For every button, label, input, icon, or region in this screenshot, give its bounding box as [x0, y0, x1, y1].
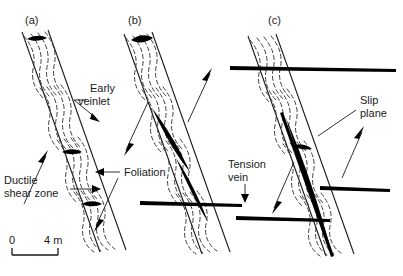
early-veinlet-b-top [131, 35, 153, 42]
tension-vein-c-left [236, 216, 330, 222]
shear-sense-arrows-c [272, 126, 364, 214]
geology-figure: (a) (b) (c) Early veinlet Ductile shear … [0, 0, 403, 276]
panel-a [22, 30, 126, 252]
label-early-veinlet-line2: veinlet [78, 95, 110, 107]
label-tension-vein-line2: vein [228, 171, 248, 183]
shear-zone-boundary-right-b [152, 32, 230, 252]
foliation-traces-a [24, 32, 115, 252]
label-tension-vein-line1: Tension [228, 158, 266, 170]
label-slip-plane-line2: plane [360, 107, 387, 119]
label-ductile-shear-zone-line1: Ductile [4, 174, 38, 186]
figure-canvas: (a) (b) (c) Early veinlet Ductile shear … [0, 0, 403, 276]
panel-label-c: (c) [268, 14, 281, 26]
panel-b [124, 32, 242, 254]
sheared-vein-b-lower [176, 158, 208, 222]
tension-vein-c-right [320, 186, 390, 192]
scale-bar-zero-label: 0 [9, 234, 15, 246]
label-slip-plane-line1: Slip [360, 94, 378, 106]
early-veinlet-a-lower [82, 201, 102, 206]
scale-bar: 0 4 m [9, 234, 62, 255]
scale-bar-max-label: 4 m [44, 234, 62, 246]
scale-bar-line [12, 248, 58, 255]
early-veinlet-a-top [27, 36, 47, 41]
label-ductile-shear-zone-line2: shear zone [4, 187, 58, 199]
panel-label-b: (b) [128, 14, 141, 26]
tension-vein-c-upper [230, 66, 396, 72]
annotation-leaders [70, 100, 356, 203]
label-foliation: Foliation [124, 166, 166, 178]
panel-c [230, 34, 396, 257]
label-early-veinlet-line1: Early [90, 82, 116, 94]
slip-plane-c-trace [280, 112, 334, 257]
sheared-vein-b [152, 108, 190, 172]
panel-label-a: (a) [25, 14, 38, 26]
leader-slip-plane [318, 110, 356, 136]
